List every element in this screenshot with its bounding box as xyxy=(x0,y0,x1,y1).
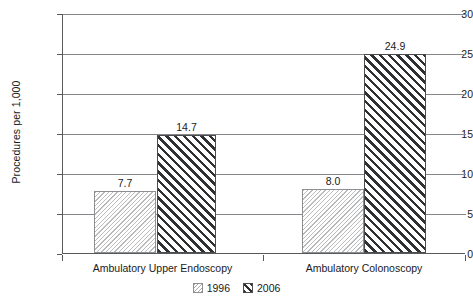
bar-value-2006-colonoscopy: 24.9 xyxy=(364,41,426,52)
y-axis-title: Procedures per 1,000 xyxy=(10,62,22,202)
legend-label-1996: 1996 xyxy=(207,283,230,294)
x-category-label-ambulatory-upper-endoscopy: Ambulatory Upper Endoscopy xyxy=(62,263,263,274)
chart-legend: 1996 2006 xyxy=(0,283,473,294)
gridline-30 xyxy=(63,14,466,15)
legend-swatch-1996-icon xyxy=(193,283,203,293)
bar-2006-ambulatory-colonoscopy xyxy=(364,54,426,253)
bar-value-2006-endoscopy: 14.7 xyxy=(157,122,216,133)
plot-area: 7.7 14.7 8.0 24.9 xyxy=(62,14,465,254)
x-category-label-ambulatory-colonoscopy: Ambulatory Colonoscopy xyxy=(263,263,465,274)
legend-swatch-2006-icon xyxy=(243,283,253,293)
legend-label-2006: 2006 xyxy=(257,283,280,294)
x-tick-left xyxy=(62,255,63,261)
bar-chart: Procedures per 1,000 30 25 20 15 10 5 0 … xyxy=(0,0,473,306)
bar-1996-ambulatory-upper-endoscopy xyxy=(94,191,156,253)
x-tick-right xyxy=(465,255,466,261)
legend-item-1996: 1996 xyxy=(193,283,230,294)
bar-2006-ambulatory-upper-endoscopy xyxy=(157,135,216,253)
legend-item-2006: 2006 xyxy=(243,283,280,294)
bar-value-1996-colonoscopy: 8.0 xyxy=(302,176,364,187)
bar-value-1996-endoscopy: 7.7 xyxy=(94,178,156,189)
x-tick-middle xyxy=(263,255,264,261)
bar-1996-ambulatory-colonoscopy xyxy=(302,189,364,253)
